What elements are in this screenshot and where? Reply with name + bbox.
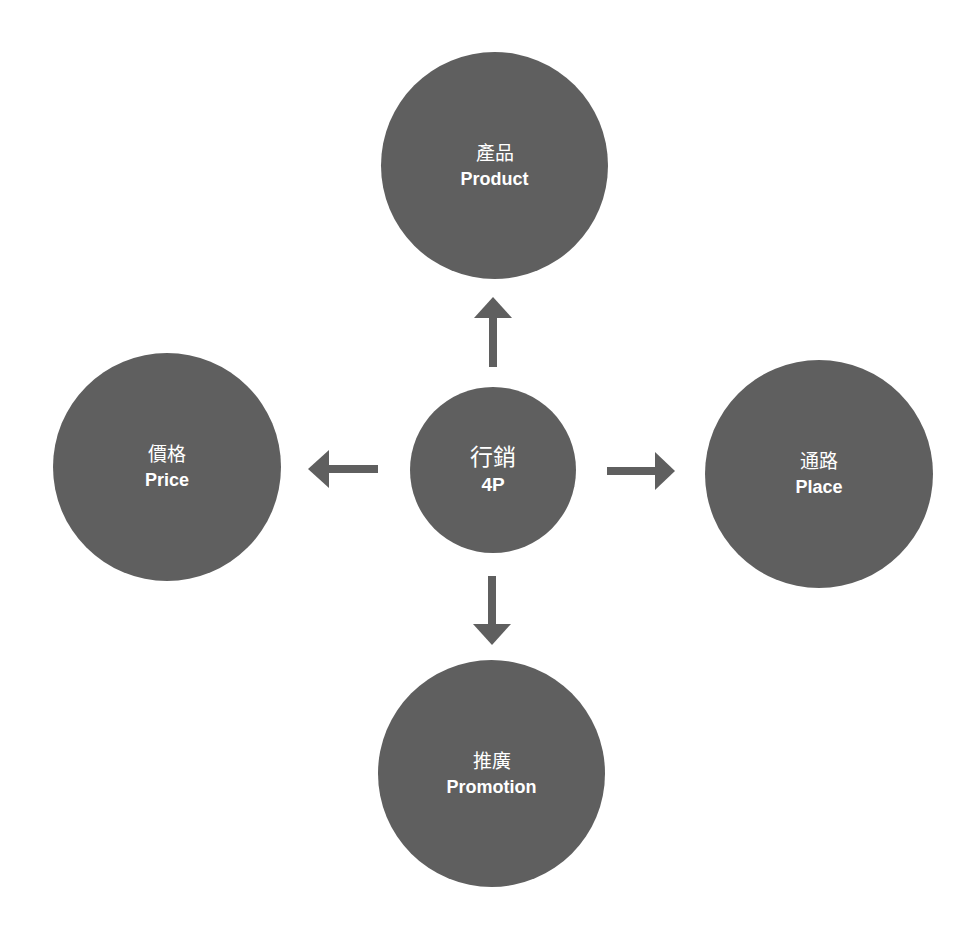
node-price: 價格 Price [53,353,281,581]
arrow-up-icon [474,297,512,367]
node-product-label-zh: 產品 [476,140,514,166]
center-label-en: 4P [481,472,504,498]
node-product-label-en: Product [460,166,528,192]
node-promotion: 推廣 Promotion [378,660,605,887]
arrow-left-icon [308,450,378,488]
node-place-label-zh: 通路 [800,448,838,474]
node-price-label-en: Price [145,467,189,493]
arrow-down-icon [473,576,511,645]
node-place-label-en: Place [795,474,842,500]
node-promotion-label-zh: 推廣 [473,748,511,774]
center-node-marketing-4p: 行銷 4P [410,387,576,553]
node-place: 通路 Place [705,360,933,588]
arrow-right-icon [607,452,675,490]
center-label-zh: 行銷 [470,442,516,472]
node-promotion-label-en: Promotion [447,774,537,800]
node-price-label-zh: 價格 [148,441,186,467]
node-product: 產品 Product [381,52,608,279]
